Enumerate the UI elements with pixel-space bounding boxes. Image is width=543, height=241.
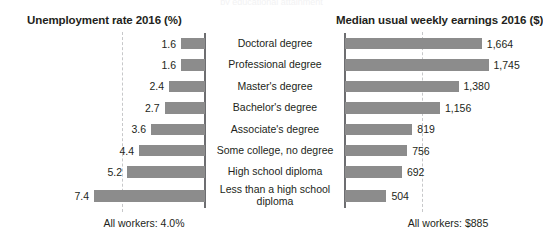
left-bar-value: 4.4 xyxy=(119,145,134,157)
right-bar-group: 1,664 xyxy=(345,38,513,50)
right-bar-value: 1,380 xyxy=(464,80,490,92)
right-bar-value: 1,745 xyxy=(494,59,520,71)
chart-row: 2.4Master's degree1,380 xyxy=(0,76,543,97)
right-bar xyxy=(345,59,489,71)
chart-row: 3.6Associate's degree819 xyxy=(0,119,543,140)
left-bar xyxy=(151,124,205,136)
category-label: Master's degree xyxy=(207,76,343,97)
left-bar-value: 1.6 xyxy=(161,59,176,71)
category-label: Some college, no degree xyxy=(207,140,343,161)
left-bar-value: 2.7 xyxy=(145,102,160,114)
left-bar-value: 7.4 xyxy=(74,190,89,202)
right-bar-value: 1,156 xyxy=(445,102,471,114)
left-bar-value: 5.2 xyxy=(107,166,122,178)
right-bar-group: 692 xyxy=(345,166,424,178)
chart-row: 7.4Less than a high school diploma504 xyxy=(0,183,543,209)
left-bar-group: 5.2 xyxy=(107,166,205,178)
right-bar-group: 1,156 xyxy=(345,102,471,114)
category-label: Associate's degree xyxy=(207,119,343,140)
left-bar xyxy=(127,166,205,178)
chart-row: 4.4Some college, no degree756 xyxy=(0,140,543,161)
right-bar xyxy=(345,145,407,157)
left-bar-group: 7.4 xyxy=(74,190,205,202)
right-bar-value: 692 xyxy=(407,166,425,178)
left-bar-group: 2.7 xyxy=(145,102,205,114)
category-label: Bachelor's degree xyxy=(207,97,343,118)
left-bar-group: 3.6 xyxy=(131,124,205,136)
left-bar xyxy=(94,190,205,202)
left-panel-footnote: All workers: 4.0% xyxy=(64,217,224,229)
chart-row: 1.6Professional degree1,745 xyxy=(0,54,543,75)
left-bar xyxy=(169,81,205,93)
category-label: Less than a high school diploma xyxy=(207,183,343,209)
left-bar xyxy=(181,59,205,71)
chart-row: 1.6Doctoral degree1,664 xyxy=(0,33,543,54)
right-bar-value: 756 xyxy=(412,145,430,157)
left-bar xyxy=(139,145,205,157)
left-bar xyxy=(181,38,205,50)
clipped-header-text: by educational attainment xyxy=(0,0,543,5)
chart-row: 2.7Bachelor's degree1,156 xyxy=(0,97,543,118)
chart-rows: 1.6Doctoral degree1,6641.6Professional d… xyxy=(0,33,543,208)
right-bar xyxy=(345,124,412,136)
right-bar xyxy=(345,102,440,114)
right-bar-group: 756 xyxy=(345,145,430,157)
right-bar-group: 819 xyxy=(345,124,435,136)
right-bar-group: 1,745 xyxy=(345,59,520,71)
right-bar-group: 504 xyxy=(345,190,409,202)
dual-bar-chart: by educational attainment Unemployment r… xyxy=(0,0,543,241)
left-bar-value: 3.6 xyxy=(131,123,146,135)
left-bar-group: 2.4 xyxy=(149,81,205,93)
left-bar-value: 2.4 xyxy=(149,80,164,92)
right-bar xyxy=(345,166,402,178)
left-panel-title: Unemployment rate 2016 (%) xyxy=(27,14,182,26)
right-panel-footnote: All workers: $885 xyxy=(368,217,528,229)
left-bar-group: 1.6 xyxy=(161,59,205,71)
category-label: Doctoral degree xyxy=(207,33,343,54)
chart-row: 5.2High school diploma692 xyxy=(0,161,543,182)
right-bar xyxy=(345,81,459,93)
left-bar-value: 1.6 xyxy=(161,38,176,50)
right-bar-value: 504 xyxy=(391,190,409,202)
right-bar-value: 1,664 xyxy=(487,38,513,50)
right-bar xyxy=(345,38,482,50)
category-label: Professional degree xyxy=(207,54,343,75)
left-bar-group: 4.4 xyxy=(119,145,205,157)
right-bar-group: 1,380 xyxy=(345,81,490,93)
right-panel-title: Median usual weekly earnings 2016 ($) xyxy=(336,14,543,26)
right-bar-value: 819 xyxy=(417,123,435,135)
left-bar xyxy=(165,102,206,114)
category-label: High school diploma xyxy=(207,161,343,182)
left-bar-group: 1.6 xyxy=(161,38,205,50)
right-bar xyxy=(345,190,386,202)
